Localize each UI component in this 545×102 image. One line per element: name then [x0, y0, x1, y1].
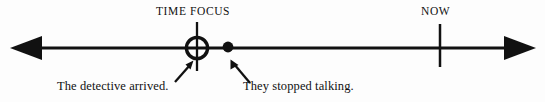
pointer-arrow-detective-arrived	[175, 61, 194, 83]
time-focus-label: TIME FOCUS	[156, 5, 230, 17]
event-dot-marker	[223, 42, 234, 53]
axis-arrowhead-right	[504, 36, 536, 60]
annotation-stopped-talking-text: They stopped talking.	[243, 79, 354, 94]
now-label: NOW	[421, 5, 450, 17]
axis-arrowhead-left	[10, 36, 42, 60]
annotation-detective-arrived-text: The detective arrived.	[57, 79, 169, 94]
